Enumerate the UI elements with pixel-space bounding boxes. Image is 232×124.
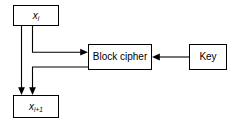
input-block-subscript: i (38, 15, 39, 22)
edge-xi-to-block-cipher (33, 26, 89, 56)
edge-xi-to-xi1 (18, 26, 25, 95)
output-block-node[interactable]: xi+1 (13, 95, 59, 118)
input-block-node[interactable]: xi (13, 5, 59, 26)
key-node[interactable]: Key (189, 44, 227, 70)
output-block-subscript: i+1 (34, 106, 43, 113)
diagram-canvas: xi xi+1 Block cipher Key (0, 0, 232, 124)
block-cipher-node[interactable]: Block cipher (88, 44, 152, 70)
output-block-label: xi+1 (29, 102, 43, 112)
key-label: Key (199, 52, 216, 62)
block-cipher-label: Block cipher (93, 52, 147, 62)
edge-key-to-block-cipher (152, 54, 189, 61)
input-block-label: xi (33, 11, 39, 21)
edge-block-cipher-to-xi1 (29, 67, 88, 95)
